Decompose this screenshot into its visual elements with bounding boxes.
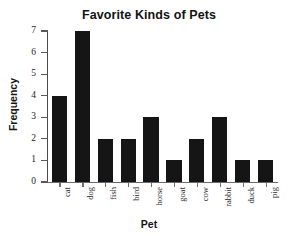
x-tick-label: horse [155,187,164,205]
x-tick-mark [174,183,175,187]
y-tick-mark [41,117,48,118]
y-tick-label: 6 [14,48,36,58]
y-tick-label: 5 [14,69,36,79]
x-axis-title: Pet [0,218,298,230]
y-tick-label: 2 [14,134,36,144]
bar [52,96,67,182]
x-tick-mark [105,183,106,187]
y-tick-mark [41,30,48,31]
bar [75,31,90,182]
bar [166,160,181,182]
x-tick-mark [128,183,129,187]
x-tick-label: pig [270,187,279,198]
x-tick-label: dog [86,187,95,200]
bar [212,117,227,182]
y-tick-label: 4 [14,91,36,101]
y-tick-mark [41,160,48,161]
y-tick-mark [41,74,48,75]
x-tick-label: duck [247,187,256,204]
x-tick-mark [243,183,244,187]
x-tick-mark [266,183,267,187]
x-tick-mark [151,183,152,187]
y-tick-label: 0 [14,177,36,187]
bar [121,139,136,182]
y-tick-mark [41,95,48,96]
y-tick-mark [41,181,48,182]
x-tick-mark [82,183,83,187]
y-tick-label: 3 [14,112,36,122]
x-tick-mark [59,183,60,187]
chart-title: Favorite Kinds of Pets [0,8,298,22]
bar [98,139,113,182]
bar [235,160,250,182]
y-tick-label: 7 [14,26,36,36]
x-tick-label: bird [132,187,141,201]
y-tick-mark [41,52,48,53]
bar [258,160,273,182]
bar-chart: Favorite Kinds of Pets Frequency Pet 012… [0,0,298,238]
x-tick-label: fish [109,187,118,200]
x-tick-mark [220,183,221,187]
x-tick-label: goat [178,187,187,202]
x-tick-mark [197,183,198,187]
x-tick-label: rabbit [224,187,233,207]
plot-area [48,31,277,182]
y-tick-mark [41,138,48,139]
x-tick-label: cow [201,187,210,201]
bar [189,139,204,182]
x-tick-label: cat [63,187,72,197]
bar [143,117,158,182]
y-axis-title: Frequency [8,78,19,131]
y-tick-label: 1 [14,155,36,165]
